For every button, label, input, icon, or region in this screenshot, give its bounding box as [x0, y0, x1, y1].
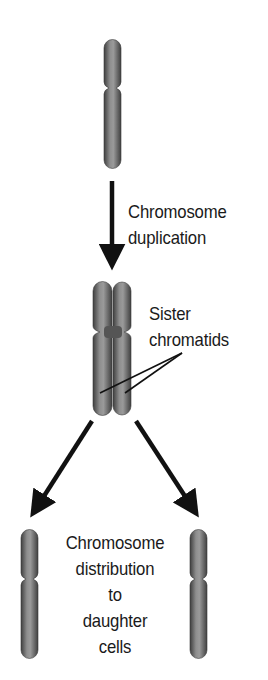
distribution-label-line4: daughter — [62, 608, 168, 634]
sister-label-line2: chromatids — [149, 327, 229, 353]
centromere — [104, 326, 122, 338]
daughter-chromosome-left — [21, 530, 38, 659]
duplication-label-line2: duplication — [128, 225, 227, 251]
distribution-label-line5: cells — [62, 634, 168, 660]
chromatid-right — [113, 282, 131, 415]
chromatid-left — [93, 282, 112, 416]
daughter-chromosome-right — [190, 530, 207, 659]
duplication-label-line1: Chromosome — [128, 199, 227, 225]
distribution-label-line2: distribution — [62, 556, 168, 582]
distribution-arrow-left — [37, 421, 92, 507]
original-chromosome — [104, 40, 121, 169]
distribution-label-line3: to — [62, 582, 168, 608]
sister-chromatids — [93, 282, 131, 416]
sister-label-line1: Sister — [149, 301, 229, 327]
pointer-line-right — [125, 353, 182, 393]
distribution-label-line1: Chromosome — [62, 530, 168, 556]
distribution-arrow-right — [136, 421, 192, 507]
duplication-label: Chromosome duplication — [128, 199, 227, 251]
distribution-label: Chromosome distribution to daughter cell… — [62, 530, 168, 660]
sister-chromatids-label: Sister chromatids — [149, 301, 229, 353]
